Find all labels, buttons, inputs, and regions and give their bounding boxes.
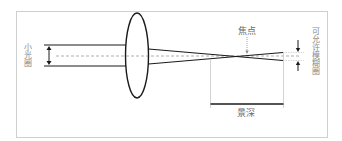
focal-point-arrow-icon — [245, 51, 248, 55]
focal-point-label: 焦点 — [238, 26, 256, 36]
diagram-frame — [17, 12, 328, 138]
coc-down-arrow-icon — [296, 40, 300, 52]
depth-of-field-diagram — [0, 0, 342, 141]
coc-up-arrow-icon — [296, 61, 300, 71]
aperture-label: 小光圈 — [22, 43, 31, 67]
circle-of-confusion-label: 可允许模糊圈 — [310, 27, 319, 75]
aperture-dimension-arrow-icon — [47, 46, 52, 65]
depth-of-field-label: 景深 — [237, 108, 255, 118]
lens — [126, 13, 149, 98]
